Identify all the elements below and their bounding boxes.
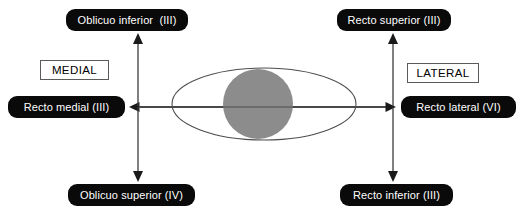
label-recto-inferior: Recto inferior (III) [340,184,453,206]
label-recto-lateral: Recto lateral (VI) [401,96,516,118]
arrow-down-right [388,107,398,182]
arrow-up-right [388,33,398,106]
label-medial: MEDIAL [40,60,109,80]
extraocular-muscle-diagram: Oblicuo inferior (III) Recto superior (I… [0,0,516,216]
label-recto-superior: Recto superior (III) [337,9,451,31]
arrow-up-left [133,33,143,106]
label-recto-medial: Recto medial (III) [8,96,125,118]
label-oblicuo-inferior: Oblicuo inferior (III) [66,9,188,31]
arrow-down-left [133,107,143,182]
label-lateral: LATERAL [407,63,479,83]
eye-iris [223,69,293,139]
label-oblicuo-superior: Oblicuo superior (IV) [68,184,195,206]
